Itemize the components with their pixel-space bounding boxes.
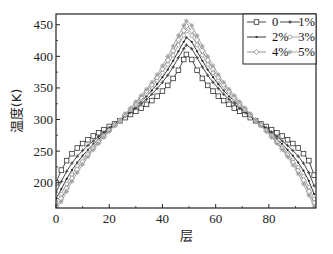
legend-label: 1% [298, 15, 315, 29]
x-axis: 020406080 [53, 204, 296, 226]
x-tick-label: 80 [262, 211, 275, 226]
x-tick-label: 60 [209, 211, 222, 226]
y-tick-label: 350 [34, 80, 54, 95]
legend-label: 0 [272, 15, 278, 29]
chart: 020406080 200250300350400450 层 温度(K) 01%… [0, 0, 333, 254]
legend: 01%2%3%4%5% [243, 14, 316, 64]
y-tick-label: 300 [34, 112, 54, 127]
y-axis-title: 温度(K) [9, 89, 24, 134]
x-axis-title: 层 [180, 228, 193, 243]
x-tick-label: 0 [53, 211, 60, 226]
y-tick-label: 200 [34, 175, 54, 190]
x-tick-label: 20 [103, 211, 116, 226]
series-0 [54, 52, 317, 185]
x-tick-label: 40 [156, 211, 169, 226]
series-1pct [54, 43, 316, 194]
legend-label: 3% [298, 30, 315, 44]
legend-label: 5% [298, 45, 315, 59]
y-tick-label: 250 [34, 144, 54, 159]
y-tick-label: 450 [34, 17, 54, 32]
y-tick-label: 400 [34, 49, 54, 64]
